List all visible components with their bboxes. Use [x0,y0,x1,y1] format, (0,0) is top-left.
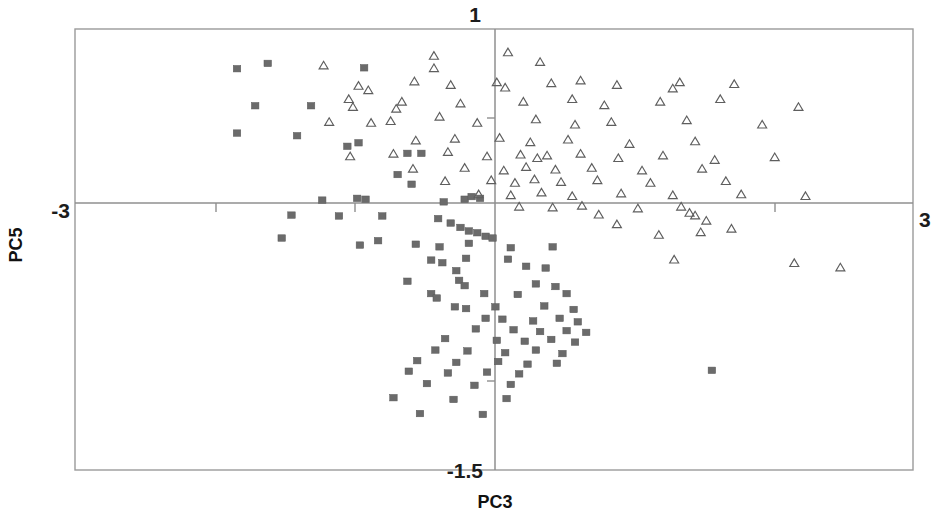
x-axis-max-label: 3 [919,208,931,231]
data-point-square [356,242,364,249]
data-point-square [450,396,458,403]
data-point-square [353,195,361,202]
data-point-square [483,369,491,376]
data-point-square [464,348,472,355]
data-point-square [507,381,515,388]
data-point-square [501,349,509,356]
data-point-square [482,233,490,240]
data-point-square [499,316,507,323]
data-point-square [335,213,343,220]
data-point-square [493,337,501,344]
data-point-square [548,336,556,343]
data-point-square [532,347,540,354]
data-point-square [465,240,473,247]
data-point-square [552,283,560,290]
y-axis-title: PC5 [6,227,26,262]
data-point-square [251,102,258,109]
data-point-square [453,267,461,274]
data-point-square [457,224,465,231]
y-axis-max-label: 1 [469,3,481,26]
data-point-square [423,380,431,387]
data-point-square [233,65,241,72]
data-point-square [288,212,296,219]
data-point-square [307,102,315,109]
data-point-square [441,335,449,342]
data-point-square [524,361,532,368]
data-point-square [461,282,469,289]
data-point-square [489,235,497,242]
data-point-square [541,303,549,310]
data-point-square [394,171,402,178]
data-point-square [563,290,571,297]
data-point-square [521,338,529,345]
data-point-square [440,199,448,206]
data-point-square [404,150,412,157]
data-point-square [264,60,272,67]
data-point-square [374,237,382,244]
data-point-square [480,290,488,297]
data-point-square [514,291,522,298]
data-point-square [559,350,567,357]
data-point-square [571,339,579,346]
data-point-square [355,140,363,147]
data-point-square [553,360,561,367]
data-point-square [278,235,286,242]
data-point-square [462,255,470,262]
data-point-square [447,220,455,227]
data-point-square [427,257,435,264]
x-axis-min-label: -3 [51,199,70,222]
data-point-square [556,315,564,322]
data-point-square [344,143,352,150]
data-point-square [570,306,578,313]
data-point-square [416,410,424,417]
data-point-square [532,281,540,288]
data-point-square [436,244,444,251]
data-point-square [504,256,512,263]
data-point-square [494,358,502,365]
data-point-square [510,327,518,334]
data-point-square [473,229,481,236]
data-point-square [461,196,469,203]
data-point-square [360,65,368,72]
data-point-square [529,318,537,325]
data-point-square [362,196,370,203]
x-axis-title: PC3 [477,492,512,512]
data-point-square [465,228,473,235]
data-point-square [472,326,480,333]
data-point-square [708,367,716,374]
data-point-square [293,132,301,139]
data-point-square [379,213,387,220]
plot-background [0,0,936,525]
data-point-square [390,394,398,401]
data-point-square [318,197,326,204]
data-point-square [413,357,421,364]
y-axis-min-label: -1.5 [447,459,484,482]
data-point-square [405,368,413,375]
data-point-square [522,263,530,270]
data-point-square [233,130,241,137]
data-point-square [536,328,544,335]
data-point-square [439,259,447,266]
data-point-square [432,347,440,354]
data-point-square [471,382,479,389]
data-point-square [507,244,515,251]
data-point-square [453,359,461,366]
data-point-square [434,215,442,222]
data-point-square [451,304,459,311]
data-point-square [479,411,487,418]
data-point-square [418,150,426,157]
data-point-square [404,278,412,285]
scatter-plot-figure: 1 -3 3 -1.5 PC3 PC5 [0,0,936,525]
data-point-square [492,304,500,311]
data-point-square [462,305,470,312]
data-point-square [408,181,416,188]
data-point-square [503,395,511,402]
plot-canvas: 1 -3 3 -1.5 PC3 PC5 [0,0,936,525]
data-point-square [433,295,441,302]
data-point-square [542,265,550,272]
data-point-square [444,370,452,377]
data-point-square [574,319,582,326]
data-point-square [563,327,571,334]
data-point-square [482,315,490,322]
data-point-square [515,371,523,378]
